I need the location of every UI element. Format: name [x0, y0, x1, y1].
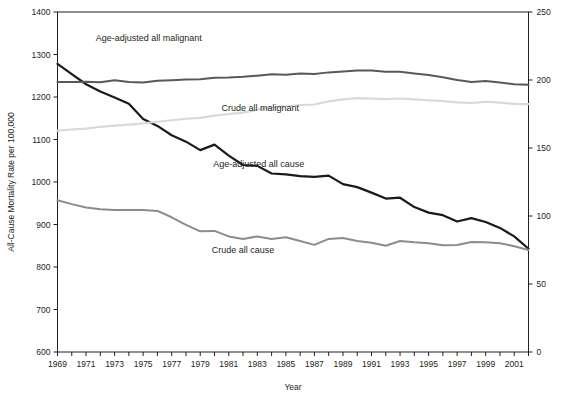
x-tick-label: 2001 — [505, 359, 524, 369]
y-tick-label-right: 50 — [537, 279, 547, 289]
y-tick-label-left: 700 — [36, 305, 50, 315]
series-label: Age-adjusted all malignant — [96, 33, 203, 43]
x-tick-label: 1999 — [476, 359, 495, 369]
x-tick-label: 1989 — [333, 359, 352, 369]
x-tick-label: 1987 — [305, 359, 324, 369]
y-tick-label-right: 250 — [537, 7, 551, 17]
x-tick-label: 1973 — [105, 359, 124, 369]
x-axis-title: Year — [284, 382, 301, 392]
y-tick-label-left: 1300 — [32, 50, 51, 60]
y-tick-label-left: 1000 — [32, 177, 51, 187]
y-tick-label-right: 100 — [537, 211, 551, 221]
series-label: Crude all malignant — [221, 103, 299, 113]
x-tick-label: 1975 — [134, 359, 153, 369]
x-tick-label: 1997 — [448, 359, 467, 369]
chart-figure: 60070080090010001100120013001400 0501001… — [0, 0, 586, 401]
y-tick-label-right: 150 — [537, 143, 551, 153]
y-tick-label-left: 1100 — [32, 135, 51, 145]
y-tick-label-right: 0 — [537, 347, 542, 357]
y-tick-label-left: 600 — [36, 347, 50, 357]
x-tick-label: 1981 — [219, 359, 238, 369]
y-tick-label-left: 800 — [36, 262, 50, 272]
x-tick-label: 1979 — [191, 359, 210, 369]
chart-background — [0, 0, 586, 401]
series-label: Age-adjusted all cause — [213, 159, 304, 169]
x-tick-label: 1985 — [276, 359, 295, 369]
y-tick-label-left: 900 — [36, 220, 50, 230]
x-tick-label: 1983 — [248, 359, 267, 369]
x-tick-label: 1977 — [162, 359, 181, 369]
mortality-line-chart: 60070080090010001100120013001400 0501001… — [0, 0, 586, 401]
x-tick-label: 1991 — [362, 359, 381, 369]
y-tick-label-left: 1400 — [32, 7, 51, 17]
y-tick-label-right: 200 — [537, 75, 551, 85]
x-tick-label: 1971 — [77, 359, 96, 369]
x-tick-label: 1969 — [48, 359, 67, 369]
series-label: Crude all cause — [212, 245, 275, 255]
y-tick-label-left: 1200 — [32, 92, 51, 102]
x-tick-label: 1993 — [391, 359, 410, 369]
y-axis-title: All-Cause Mortality Rate per 100,000 — [6, 112, 16, 252]
x-tick-label: 1995 — [419, 359, 438, 369]
